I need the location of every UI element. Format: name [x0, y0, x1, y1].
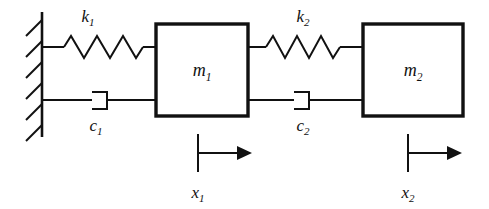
spring-k1-coil: [64, 36, 143, 58]
spring-k1: k1: [42, 7, 156, 58]
damper-c1: c1: [42, 92, 156, 137]
wall-hatch-mark: [26, 125, 42, 141]
mass-m1: m1: [156, 24, 248, 116]
displacement-x1: x1: [190, 134, 252, 204]
mechanical-system-diagram: k1 c1 m1 k2: [0, 0, 489, 209]
displacement-x2-label: x2: [400, 183, 415, 204]
schematic-canvas: k1 c1 m1 k2: [0, 0, 489, 209]
spring-k2: k2: [248, 7, 363, 58]
fixed-support-wall: [26, 12, 42, 141]
damper-c1-cylinder: [92, 92, 107, 109]
displacement-x1-arrow-head: [237, 146, 252, 160]
spring-k2-coil: [266, 36, 340, 58]
wall-hatch-mark: [26, 83, 42, 99]
wall-hatch-mark: [26, 41, 42, 57]
damper-c2-cylinder: [294, 92, 309, 109]
wall-hatch-mark: [26, 20, 42, 36]
damper-c1-label: c1: [89, 116, 102, 137]
displacement-x2-arrow-head: [447, 146, 462, 160]
damper-c2: c2: [248, 92, 363, 137]
wall-hatching: [26, 20, 42, 141]
wall-hatch-mark: [26, 104, 42, 120]
displacement-x1-label: x1: [190, 183, 204, 204]
spring-k1-label: k1: [81, 7, 94, 28]
mass-m2: m2: [363, 24, 463, 116]
wall-hatch-mark: [26, 62, 42, 78]
displacement-x2: x2: [400, 134, 462, 204]
spring-k2-label: k2: [296, 7, 310, 28]
damper-c2-label: c2: [296, 116, 310, 137]
